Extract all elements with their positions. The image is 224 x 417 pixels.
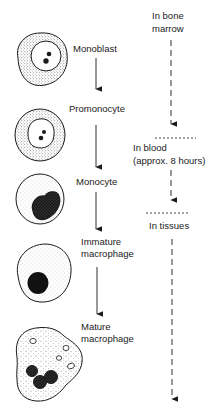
monocyte-cell-icon [16, 174, 64, 224]
label-immature-line1: Immature [81, 236, 121, 248]
label-mature-line1: Mature [81, 321, 111, 333]
label-bone-marrow-line2: marrow [152, 23, 184, 35]
label-blood-line2: (approx. 8 hours) [133, 155, 205, 167]
label-bone-marrow-line1: In bone [152, 10, 184, 22]
label-monoblast: Monoblast [73, 43, 117, 55]
label-blood-line1: In blood [133, 142, 167, 154]
monoblast-cell-icon [18, 33, 68, 86]
label-promonocyte: Promonocyte [69, 103, 125, 115]
label-immature-line2: macrophage [81, 248, 134, 260]
label-mature-line2: macrophage [81, 333, 134, 345]
label-monocyte: Monocyte [76, 176, 117, 188]
promonocyte-cell-icon [15, 109, 65, 161]
monocyte-lineage-diagram [0, 0, 224, 417]
mature-macrophage-cell-icon [16, 327, 82, 401]
label-tissues: In tissues [149, 220, 189, 232]
immature-macrophage-cell-icon [17, 244, 71, 302]
